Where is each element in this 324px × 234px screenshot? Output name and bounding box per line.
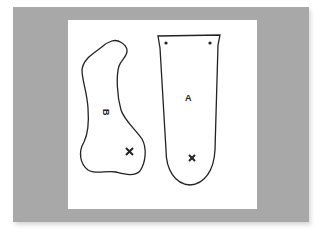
shape-a-label: A xyxy=(185,93,192,103)
shape-a-x-mark xyxy=(189,155,195,161)
shape-b: B xyxy=(81,41,146,175)
pattern-drawing: B A xyxy=(0,0,324,234)
shape-b-x-mark xyxy=(126,148,133,155)
hole-right-icon xyxy=(208,41,211,44)
shape-a: A xyxy=(158,35,220,185)
shape-b-label: B xyxy=(101,109,111,116)
hole-left-icon xyxy=(164,41,167,44)
